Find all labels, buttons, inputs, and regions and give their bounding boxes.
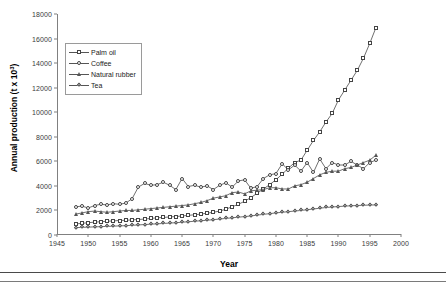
marker-circle xyxy=(105,203,109,207)
marker-square xyxy=(274,178,278,182)
marker-square xyxy=(130,218,134,222)
marker-triangle xyxy=(136,208,140,212)
marker-square xyxy=(224,207,228,211)
legend-label: Natural rubber xyxy=(89,71,136,78)
marker-square xyxy=(305,148,309,152)
marker-triangle xyxy=(274,186,278,190)
marker-circle xyxy=(199,185,203,189)
y-axis-title: Annual production (t x 103) xyxy=(9,64,20,173)
chart-legend: Palm oilCoffeeNatural rubberTea xyxy=(65,43,142,95)
marker-square xyxy=(180,214,184,218)
marker-square xyxy=(161,215,165,219)
marker-triangle xyxy=(286,187,290,191)
marker-circle xyxy=(143,181,147,185)
marker-circle xyxy=(374,158,378,162)
marker-circle xyxy=(336,163,340,167)
legend-item-coffee: Coffee xyxy=(69,58,136,69)
marker-circle xyxy=(305,161,309,165)
marker-triangle xyxy=(224,194,228,198)
marker-square xyxy=(205,211,209,215)
marker-circle xyxy=(268,173,272,177)
marker-circle xyxy=(211,188,215,192)
legend-swatch xyxy=(69,58,89,69)
marker-circle xyxy=(299,169,303,173)
marker-circle xyxy=(318,157,322,161)
marker-triangle xyxy=(168,205,172,209)
marker-triangle xyxy=(211,196,215,200)
marker-square xyxy=(174,215,178,219)
marker-triangle xyxy=(368,158,372,162)
marker-square xyxy=(218,209,222,213)
marker-square xyxy=(243,199,247,203)
marker-triangle xyxy=(149,207,153,211)
marker-triangle xyxy=(349,165,353,169)
marker-square xyxy=(230,205,234,209)
marker-square xyxy=(249,196,253,200)
marker-triangle xyxy=(261,188,265,192)
marker-square xyxy=(193,213,197,217)
marker-circle xyxy=(286,168,290,172)
legend-item-natural-rubber: Natural rubber xyxy=(69,69,136,80)
y-axis-title-text: Annual production (t x 10 xyxy=(9,70,19,172)
marker-triangle xyxy=(86,210,90,214)
marker-circle xyxy=(330,161,334,165)
marker-triangle xyxy=(130,208,134,212)
marker-triangle xyxy=(80,211,84,215)
marker-triangle xyxy=(180,204,184,208)
marker-square xyxy=(118,219,122,223)
marker-triangle xyxy=(193,202,197,206)
marker-square xyxy=(324,120,328,124)
marker-circle xyxy=(174,188,178,192)
legend-swatch xyxy=(69,80,89,91)
marker-triangle xyxy=(330,169,334,173)
chart-figure: Annual production (t x 103) 020004000600… xyxy=(0,0,446,285)
marker-square xyxy=(343,88,347,92)
marker-square xyxy=(155,216,159,220)
marker-triangle xyxy=(336,169,340,173)
marker-circle xyxy=(205,184,209,188)
marker-triangle xyxy=(343,167,347,171)
marker-square xyxy=(168,215,172,219)
y-axis-title-exponent: 3 xyxy=(9,67,15,70)
footer-rule-bottom xyxy=(0,281,446,282)
legend-label: Tea xyxy=(89,82,102,89)
marker-circle xyxy=(186,185,190,189)
marker-square xyxy=(77,50,81,54)
marker-circle xyxy=(168,183,172,187)
marker-square xyxy=(136,218,140,222)
marker-square xyxy=(330,111,334,115)
marker-triangle xyxy=(111,210,115,214)
marker-triangle xyxy=(74,212,78,216)
marker-triangle xyxy=(293,184,297,188)
legend-label: Coffee xyxy=(89,60,112,67)
marker-square xyxy=(368,41,372,45)
marker-square xyxy=(211,210,215,214)
marker-square xyxy=(149,216,153,220)
marker-square xyxy=(280,172,284,176)
marker-triangle xyxy=(174,204,178,208)
marker-triangle xyxy=(161,205,165,209)
marker-square xyxy=(111,219,115,223)
marker-circle xyxy=(311,170,315,174)
marker-triangle xyxy=(93,209,97,213)
marker-triangle xyxy=(255,188,259,192)
legend-swatch xyxy=(69,69,89,80)
marker-circle xyxy=(293,163,297,167)
marker-square xyxy=(361,56,365,60)
marker-triangle xyxy=(311,177,315,181)
marker-square xyxy=(236,202,240,206)
marker-square xyxy=(299,158,303,162)
x-axis-title: Year xyxy=(220,259,238,269)
marker-circle xyxy=(180,177,184,181)
marker-square xyxy=(199,212,203,216)
marker-triangle xyxy=(186,203,190,207)
marker-circle xyxy=(149,183,153,187)
marker-circle xyxy=(243,178,247,182)
marker-triangle xyxy=(105,210,109,214)
marker-circle xyxy=(230,185,234,189)
marker-triangle xyxy=(236,190,240,194)
marker-square xyxy=(355,68,359,72)
legend-item-tea: Tea xyxy=(69,80,136,91)
marker-circle xyxy=(274,172,278,176)
marker-square xyxy=(336,98,340,102)
